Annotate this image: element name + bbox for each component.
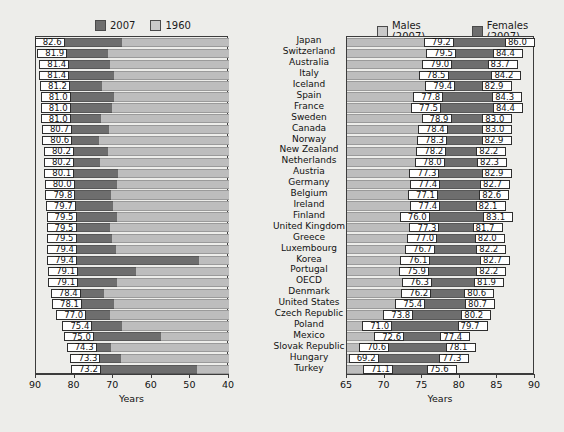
bar-segment-females [435, 245, 476, 254]
bar-segment-females [443, 92, 492, 101]
bar-value-label-females: 80.6 [464, 289, 494, 298]
axis-tick [35, 374, 36, 378]
bar-segment-females [454, 38, 505, 47]
bar-value-label-males: 76.1 [400, 256, 430, 265]
axis-tick-label: 90 [528, 379, 540, 390]
bar-rows-left: 82.681.981.481.481.281.081.081.080.780.6… [36, 37, 227, 373]
bar-value-label-2007: 80.2 [44, 147, 74, 156]
bar-row: 78.483.0 [347, 125, 533, 134]
bar-value-label-females: 82.7 [480, 256, 510, 265]
bar-value-label-males: 78.2 [416, 147, 446, 156]
bar-segment-females [429, 267, 476, 276]
bar-row: 79.5 [36, 223, 227, 232]
bar-row: 81.0 [36, 92, 227, 101]
axis-tick [421, 374, 422, 378]
bar-segment-2007 [71, 103, 112, 112]
bar-value-label-females: 82.3 [477, 158, 507, 167]
bar-segment-2007 [78, 278, 117, 287]
bar-rows-right: 79.286.079.584.479.083.778.584.279.482.9… [347, 37, 533, 373]
bar-value-label-2007: 73.2 [71, 365, 101, 374]
legend-swatch-females-icon [472, 26, 483, 37]
bar-value-label-females: 86.0 [505, 38, 535, 47]
axis-tick [151, 374, 152, 378]
bar-value-label-2007: 79.1 [48, 267, 78, 276]
bar-value-label-2007: 74.3 [67, 343, 97, 352]
axis-tick-label: 65 [340, 379, 352, 390]
bar-row: 77.482.7 [347, 180, 533, 189]
bar-segment-2007 [67, 49, 108, 58]
bar-value-label-females: 82.2 [476, 267, 506, 276]
bar-segment-2007 [74, 147, 108, 156]
bar-row: 81.4 [36, 71, 227, 80]
bar-segment-2007 [65, 38, 122, 47]
bar-segment-females [430, 212, 483, 221]
bar-segment-females [445, 158, 477, 167]
chart-panel-left: 82.681.981.481.481.281.081.081.080.780.6… [0, 36, 250, 380]
bar-segment-females [440, 180, 480, 189]
plot-area-left: 82.681.981.481.481.281.081.081.080.780.6… [35, 36, 228, 374]
bar-row: 77.0 [36, 310, 227, 319]
bar-value-label-males: 78.3 [417, 136, 447, 145]
axis-line [346, 374, 534, 375]
bar-segment-females [452, 60, 487, 69]
legend-label-2007: 2007 [110, 20, 135, 31]
bar-value-label-males: 76.0 [400, 212, 430, 221]
bar-value-label-females: 82.1 [476, 201, 506, 210]
bar-segment-females [438, 190, 479, 199]
bar-value-label-males: 75.4 [395, 299, 425, 308]
axis-tick-label: 70 [378, 379, 390, 390]
bar-value-label-2007: 81.0 [41, 92, 71, 101]
legend-entry-1960: 1960 [150, 20, 190, 31]
bar-segment-females [425, 299, 465, 308]
bar-value-label-males: 71.0 [362, 321, 392, 330]
bar-value-label-males: 77.5 [411, 103, 441, 112]
bar-value-label-females: 82.6 [479, 190, 509, 199]
bar-row: 79.1 [36, 278, 227, 287]
bar-row: 71.175.6 [347, 365, 533, 374]
bar-segment-2007 [97, 343, 111, 352]
bar-segment-2007 [77, 256, 199, 265]
bar-segment-2007 [77, 245, 116, 254]
bar-value-label-2007: 81.4 [39, 71, 69, 80]
legend-left-panel: 2007 1960 [95, 20, 191, 31]
bar-segment-2007 [77, 212, 118, 221]
bar-row: 69.277.3 [347, 354, 533, 363]
bar-value-label-2007: 79.5 [47, 212, 77, 221]
legend-entry-2007: 2007 [95, 20, 135, 31]
bar-segment-2007 [76, 201, 113, 210]
bar-segment-females [413, 310, 461, 319]
bar-value-label-males: 72.6 [374, 332, 404, 341]
bar-segment-females [389, 343, 445, 352]
bar-segment-2007 [92, 321, 121, 330]
bar-value-label-2007: 79.1 [48, 278, 78, 287]
bar-value-label-males: 79.4 [425, 81, 455, 90]
bar-value-label-males: 76.3 [402, 278, 432, 287]
axis-tick-label: 40 [222, 379, 234, 390]
bar-segment-2007 [74, 158, 100, 167]
bar-value-label-males: 76.2 [401, 289, 431, 298]
bar-segment-females [439, 223, 472, 232]
bar-segment-females [447, 136, 482, 145]
axis-title: Years [427, 393, 452, 404]
bar-row: 78.382.9 [347, 136, 533, 145]
bar-value-label-females: 82.9 [482, 169, 512, 178]
bar-row: 78.1 [36, 299, 227, 308]
bar-row: 79.584.4 [347, 49, 533, 58]
bar-segment-2007 [74, 169, 118, 178]
axis-tick [74, 374, 75, 378]
axis-title: Years [119, 393, 144, 404]
bar-value-label-females: 78.1 [446, 343, 476, 352]
bar-segment-2007 [82, 299, 114, 308]
bar-row: 76.381.9 [347, 278, 533, 287]
bar-segment-2007 [69, 60, 110, 69]
bar-value-label-2007: 81.9 [37, 49, 67, 58]
bar-value-label-females: 80.7 [465, 299, 495, 308]
bar-value-label-females: 79.7 [458, 321, 488, 330]
bar-segment-2007 [71, 92, 114, 101]
bar-segment-females [441, 103, 493, 112]
bar-row: 77.182.6 [347, 190, 533, 199]
bar-value-label-males: 79.2 [424, 38, 454, 47]
bar-value-label-females: 81.7 [473, 223, 503, 232]
bar-segment-2007 [77, 234, 112, 243]
bar-segment-females [431, 289, 464, 298]
